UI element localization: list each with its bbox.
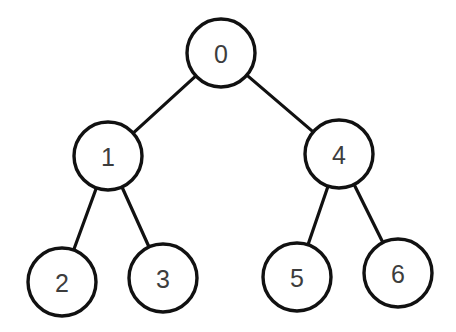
tree-node-0: 0 [187, 19, 255, 87]
node-label: 6 [391, 260, 405, 288]
node-label: 2 [55, 269, 69, 297]
node-label: 5 [290, 264, 304, 292]
edge-1-2 [74, 188, 97, 250]
edge-1-3 [122, 187, 149, 247]
tree-node-1: 1 [74, 122, 142, 190]
tree-node-6: 6 [364, 239, 432, 307]
tree-node-3: 3 [129, 244, 197, 312]
tree-node-2: 2 [28, 248, 96, 316]
nodes-layer: 0142356 [28, 19, 432, 316]
edge-4-6 [354, 184, 383, 242]
edge-0-1 [133, 76, 196, 133]
node-label: 4 [332, 141, 346, 169]
tree-node-4: 4 [305, 120, 373, 188]
node-label: 0 [214, 40, 228, 68]
edge-4-5 [308, 186, 328, 245]
node-label: 3 [156, 265, 170, 293]
tree-diagram: 0142356 [0, 0, 456, 332]
node-label: 1 [101, 143, 115, 171]
edge-0-4 [247, 75, 313, 132]
tree-node-5: 5 [263, 243, 331, 311]
